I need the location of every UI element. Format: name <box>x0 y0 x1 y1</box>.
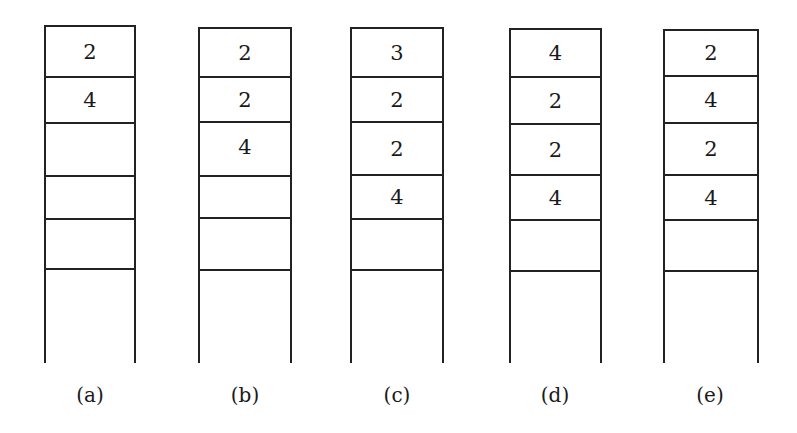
stack-cell: 4 <box>511 176 600 221</box>
stack-cell: 2 <box>46 27 134 78</box>
stack-cell: 3 <box>352 29 442 78</box>
cell-value: 2 <box>238 41 251 65</box>
stack-cell: 4 <box>352 176 442 220</box>
stack-column-d: 4 2 2 4 <box>509 28 602 363</box>
stack-cell: 2 <box>511 78 600 125</box>
stack-column-c: 3 2 2 4 <box>350 27 444 363</box>
stack-cell: 4 <box>200 123 290 177</box>
stack-cell: 2 <box>352 123 442 176</box>
stack-cell <box>352 220 442 271</box>
stack-cell: 2 <box>665 124 757 176</box>
stack-cell <box>46 124 134 177</box>
stack-column-a: 2 4 <box>44 25 136 363</box>
cell-value: 3 <box>390 41 403 65</box>
stack-column-b: 2 2 4 <box>198 27 292 363</box>
stack-cell: 4 <box>665 176 757 221</box>
stack-cell: 2 <box>352 78 442 123</box>
stack-cell <box>46 220 134 270</box>
cell-value: 2 <box>549 138 562 162</box>
column-label-c: (c) <box>357 383 437 407</box>
cell-value: 4 <box>83 88 96 112</box>
stack-cell: 2 <box>511 125 600 176</box>
cell-value: 4 <box>549 186 562 210</box>
stack-cell <box>665 221 757 272</box>
cell-value: 2 <box>238 88 251 112</box>
cell-value: 2 <box>390 137 403 161</box>
cell-value: 2 <box>549 89 562 113</box>
column-label-b: (b) <box>205 383 285 407</box>
stack-cell <box>200 177 290 219</box>
cell-value: 2 <box>83 40 96 64</box>
cell-value: 4 <box>704 186 717 210</box>
stack-cell <box>200 219 290 271</box>
stack-cell: 4 <box>665 77 757 124</box>
cell-value: 2 <box>704 41 717 65</box>
stack-cell <box>46 177 134 220</box>
column-label-d: (d) <box>515 383 595 407</box>
cell-value: 4 <box>390 185 403 209</box>
stack-cell <box>511 221 600 272</box>
stack-column-e: 2 4 2 4 <box>663 29 759 363</box>
stack-cell: 2 <box>665 31 757 77</box>
cell-value: 4 <box>238 135 251 159</box>
stack-cell: 4 <box>511 30 600 78</box>
cell-value: 4 <box>549 41 562 65</box>
cell-value: 4 <box>704 88 717 112</box>
cell-value: 2 <box>704 137 717 161</box>
column-label-a: (a) <box>50 383 130 407</box>
stack-cell: 2 <box>200 29 290 78</box>
stack-cell: 2 <box>200 78 290 123</box>
stack-cell: 4 <box>46 78 134 124</box>
cell-value: 2 <box>390 88 403 112</box>
column-label-e: (e) <box>670 383 750 407</box>
